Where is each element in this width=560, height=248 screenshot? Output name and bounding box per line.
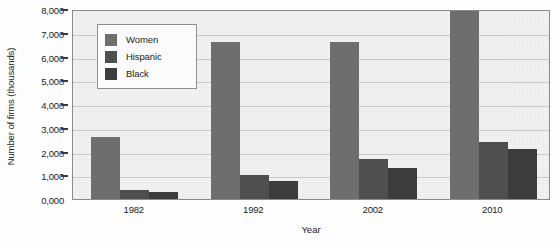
bar-black-2002 bbox=[388, 168, 417, 199]
x-axis-title: Year bbox=[72, 224, 550, 235]
y-axis-title-text: Number of firms (thousands) bbox=[6, 47, 17, 165]
y-tick-mark bbox=[61, 9, 68, 11]
legend-item-women: Women bbox=[105, 31, 184, 48]
y-axis-tick-labels: 0,0001,0002,0003,0004,0005,0006,0007,000… bbox=[22, 10, 68, 200]
legend-swatch-women-icon bbox=[105, 34, 117, 46]
bar-women-1992 bbox=[211, 42, 240, 199]
bar-black-1982 bbox=[149, 192, 178, 199]
x-axis-tick-labels: 1982199220022010 bbox=[72, 204, 550, 218]
legend-label-women: Women bbox=[126, 34, 158, 45]
y-tick-mark bbox=[61, 175, 68, 177]
plot-area: Women Hispanic Black bbox=[72, 10, 550, 200]
y-tick-mark bbox=[61, 57, 68, 59]
chart-figure: Number of firms (thousands) 0,0001,0002,… bbox=[0, 0, 560, 248]
chart-legend: Women Hispanic Black bbox=[97, 24, 197, 89]
bar-women-2002 bbox=[330, 42, 359, 199]
y-tick-label: 0,000 bbox=[41, 195, 64, 206]
y-tick-mark bbox=[61, 128, 68, 130]
legend-label-black: Black bbox=[126, 68, 149, 79]
legend-item-black: Black bbox=[105, 65, 184, 82]
y-tick-mark bbox=[61, 33, 68, 35]
y-axis-title: Number of firms (thousands) bbox=[0, 0, 22, 212]
bar-black-1992 bbox=[269, 181, 298, 199]
legend-label-hispanic: Hispanic bbox=[126, 51, 162, 62]
legend-item-hispanic: Hispanic bbox=[105, 48, 184, 65]
legend-swatch-black-icon bbox=[105, 68, 117, 80]
y-tick-mark bbox=[61, 152, 68, 154]
bar-hispanic-2002 bbox=[359, 159, 388, 199]
x-tick-label: 2002 bbox=[363, 204, 383, 215]
x-tick-label: 1982 bbox=[124, 204, 144, 215]
bar-hispanic-1982 bbox=[120, 190, 149, 200]
bar-hispanic-1992 bbox=[240, 175, 269, 199]
bar-women-2010 bbox=[450, 10, 479, 199]
bar-black-2010 bbox=[508, 149, 537, 199]
bar-women-1982 bbox=[91, 137, 120, 199]
x-tick-label: 2010 bbox=[482, 204, 502, 215]
y-tick-mark bbox=[61, 80, 68, 82]
y-tick-mark bbox=[61, 104, 68, 106]
x-tick-label: 1992 bbox=[243, 204, 263, 215]
bar-hispanic-2010 bbox=[479, 142, 508, 199]
legend-swatch-hispanic-icon bbox=[105, 51, 117, 63]
